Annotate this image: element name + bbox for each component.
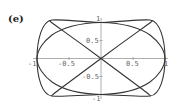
x-tick-label-1: 1 [164,60,168,68]
lissajous-plot: -1 -0.5 0.5 1 1 0.5 -0.5 -1 [0,0,175,104]
x-tick-label-neg1: -1 [28,60,36,68]
y-tick-label-neg05: -0.5 [82,73,99,81]
x-tick-label-neg05: -0.5 [58,60,75,68]
y-tick-label-05: 0.5 [86,37,99,45]
x-tick-label-05: 0.5 [126,60,139,68]
y-tick-label-1: 1 [96,15,100,23]
y-tick-label-neg1: -1 [92,95,100,103]
